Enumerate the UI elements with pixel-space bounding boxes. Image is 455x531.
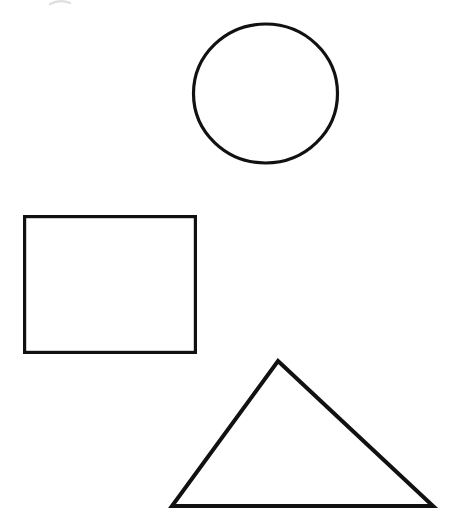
shapes-canvas <box>0 0 455 531</box>
page-background <box>0 0 455 531</box>
shapes-page <box>0 0 455 531</box>
